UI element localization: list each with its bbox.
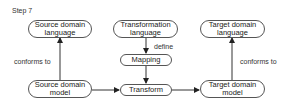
node-transform: Transform — [120, 84, 172, 96]
node-source-domain-language: Source domain language — [28, 20, 92, 38]
node-transformation-language: Transformation language — [113, 20, 178, 38]
node-target-domain-model: Target domain model — [200, 80, 265, 98]
node-mapping: Mapping — [120, 54, 172, 66]
edge-label-target-conforms: conforms to — [240, 58, 277, 65]
edge-label-source-conforms: conforms to — [14, 58, 51, 65]
diagram-canvas: Step 7 Source domain language Transforma… — [0, 0, 294, 108]
edge-label-define: define — [154, 43, 173, 50]
node-source-domain-model: Source domain model — [28, 80, 92, 98]
node-target-domain-language: Target domain language — [200, 20, 265, 38]
